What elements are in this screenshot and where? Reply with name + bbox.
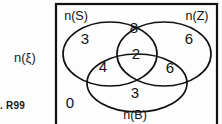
region-value-z-only: 6 — [185, 30, 193, 47]
venn-svg: n(S) n(Z) n(B) 3 6 8 4 6 2 3 0 — [0, 0, 222, 124]
venn-diagram-figure: . R99 n(ξ) n(S) n(Z) n(B) 3 6 8 4 6 2 3 … — [0, 0, 222, 124]
region-value-b-only: 3 — [131, 84, 139, 101]
region-value-s-and-b: 4 — [99, 58, 107, 75]
region-value-z-and-b: 6 — [166, 59, 174, 76]
region-value-s-only: 3 — [81, 30, 89, 47]
set-label-s: n(S) — [64, 9, 88, 23]
set-label-b: n(B) — [123, 108, 147, 122]
set-label-z: n(Z) — [186, 9, 209, 23]
region-value-outside-all: 0 — [66, 94, 74, 111]
region-value-s-and-z-and-b: 2 — [132, 45, 140, 62]
region-value-s-and-z: 8 — [130, 19, 138, 36]
